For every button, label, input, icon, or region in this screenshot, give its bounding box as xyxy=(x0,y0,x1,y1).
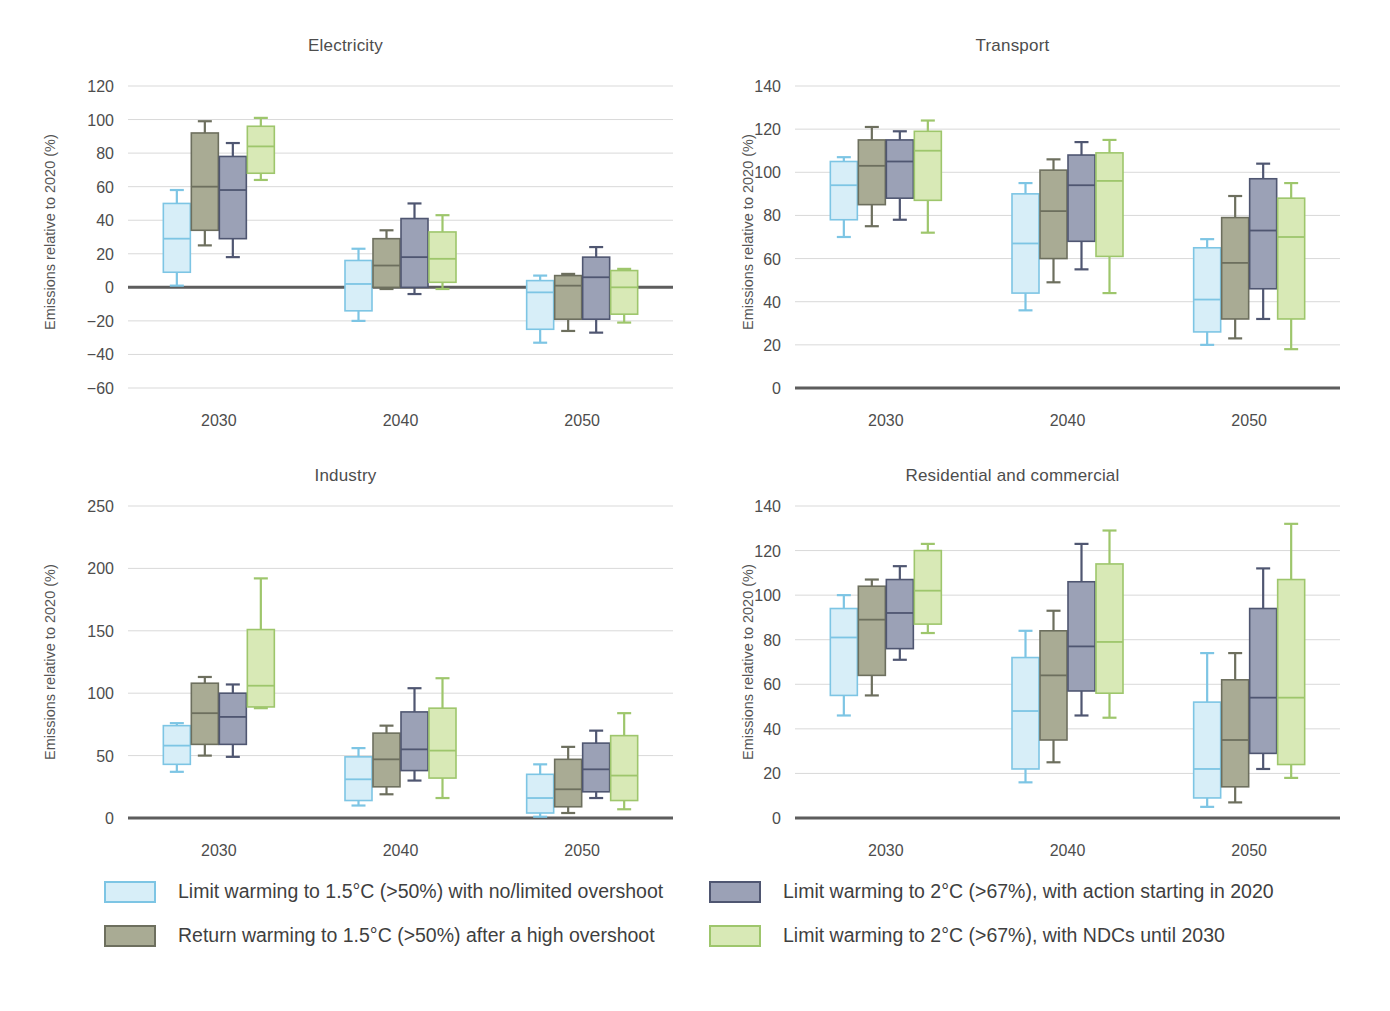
plot-wrapper-residential: 020406080100120140203020402050 xyxy=(725,506,1390,880)
legend-swatch-return_15 xyxy=(104,925,156,947)
box-transport-2030-limit_15 xyxy=(830,157,857,237)
box-transport-2040-limit_15 xyxy=(1012,183,1039,310)
box-rect xyxy=(1096,153,1123,257)
box-rect xyxy=(1222,218,1249,319)
x-tick-label: 2040 xyxy=(383,412,419,429)
chart-legend: Limit warming to 1.5°C (>50%) with no/li… xyxy=(0,868,1390,978)
y-tick-label: 60 xyxy=(96,179,114,196)
box-transport-2050-return_15 xyxy=(1222,196,1249,338)
box-rect xyxy=(345,260,372,310)
legend-item-limit_2_2020[interactable]: Limit warming to 2°C (>67%), with action… xyxy=(709,880,1274,903)
legend-item-limit_15[interactable]: Limit warming to 1.5°C (>50%) with no/li… xyxy=(104,880,663,903)
y-tick-label: 20 xyxy=(763,765,781,782)
box-residential-2050-return_15 xyxy=(1222,653,1249,802)
panel-transport: TransportEmissions relative to 2020 (%)0… xyxy=(0,0,1390,1011)
box-residential-2040-limit_15 xyxy=(1012,631,1039,783)
box-rect xyxy=(555,276,582,320)
box-rect xyxy=(1222,680,1249,787)
figure-boxplot-grid: ElectricityEmissions relative to 2020 (%… xyxy=(0,0,1390,1011)
x-tick-label: 2050 xyxy=(1231,412,1267,429)
plot-wrapper-transport: 020406080100120140203020402050 xyxy=(725,86,1390,450)
box-rect xyxy=(583,743,610,792)
box-rect xyxy=(1040,631,1067,740)
box-rect xyxy=(858,140,885,205)
y-tick-label: 100 xyxy=(87,685,114,702)
box-rect xyxy=(429,232,456,282)
y-tick-label: 100 xyxy=(754,164,781,181)
y-tick-label: 60 xyxy=(763,676,781,693)
box-rect xyxy=(219,693,246,744)
box-rect xyxy=(429,708,456,778)
y-tick-label: 20 xyxy=(763,337,781,354)
y-tick-label: 120 xyxy=(754,543,781,560)
box-rect xyxy=(247,126,274,173)
y-tick-label: 60 xyxy=(763,251,781,268)
plot-area-residential: 020406080100120140203020402050 xyxy=(725,506,1390,880)
y-tick-label: 140 xyxy=(754,78,781,95)
box-residential-2050-limit_2_2020 xyxy=(1250,568,1277,769)
box-rect xyxy=(247,630,274,707)
box-industry-2030-return_15 xyxy=(191,677,218,756)
box-industry-2050-limit_15 xyxy=(527,764,554,816)
y-tick-label: 120 xyxy=(754,121,781,138)
legend-label-return_15: Return warming to 1.5°C (>50%) after a h… xyxy=(178,924,655,947)
box-rect xyxy=(611,271,638,315)
box-transport-2050-limit_15 xyxy=(1194,239,1221,345)
y-axis-label-electricity: Emissions relative to 2020 (%) xyxy=(42,134,58,330)
box-industry-2050-limit_2_2020 xyxy=(583,731,610,798)
y-tick-label: 120 xyxy=(87,78,114,95)
box-transport-2030-limit_2_2020 xyxy=(886,131,913,219)
legend-label-limit_2_2020: Limit warming to 2°C (>67%), with action… xyxy=(783,880,1274,903)
box-residential-2030-return_15 xyxy=(858,580,885,696)
box-rect xyxy=(1096,564,1123,693)
plot-area-electricity: −60−40−20020406080100120203020402050 xyxy=(58,86,733,450)
legend-swatch-limit_2_ndc xyxy=(709,925,761,947)
box-rect xyxy=(555,759,582,806)
box-rect xyxy=(373,239,400,288)
box-electricity-2030-limit_2_ndc xyxy=(247,118,274,180)
box-rect xyxy=(191,683,218,744)
y-tick-label: 80 xyxy=(763,207,781,224)
legend-item-return_15[interactable]: Return warming to 1.5°C (>50%) after a h… xyxy=(104,924,655,947)
box-rect xyxy=(373,733,400,787)
legend-swatch-limit_2_2020 xyxy=(709,881,761,903)
box-electricity-2030-limit_15 xyxy=(163,190,190,286)
x-tick-label: 2030 xyxy=(201,412,237,429)
y-tick-label: 20 xyxy=(96,246,114,263)
box-rect xyxy=(1068,582,1095,691)
box-transport-2050-limit_2_2020 xyxy=(1250,164,1277,319)
y-tick-label: 50 xyxy=(96,748,114,765)
panel-residential: Residential and commercialEmissions rela… xyxy=(0,0,1390,1011)
box-industry-2040-limit_2_2020 xyxy=(401,688,428,780)
box-electricity-2040-limit_2_2020 xyxy=(401,203,428,294)
y-tick-label: 40 xyxy=(763,294,781,311)
legend-swatch-limit_15 xyxy=(104,881,156,903)
box-rect xyxy=(886,140,913,198)
y-tick-label: 40 xyxy=(763,721,781,738)
box-industry-2030-limit_2_ndc xyxy=(247,578,274,708)
panel-title-industry: Industry xyxy=(18,466,673,486)
x-tick-label: 2030 xyxy=(201,842,237,859)
x-tick-label: 2040 xyxy=(383,842,419,859)
y-tick-label: 40 xyxy=(96,212,114,229)
x-tick-label: 2040 xyxy=(1050,412,1086,429)
box-electricity-2050-limit_15 xyxy=(527,276,554,343)
box-industry-2050-limit_2_ndc xyxy=(611,713,638,809)
box-residential-2040-limit_2_ndc xyxy=(1096,531,1123,718)
legend-item-limit_2_ndc[interactable]: Limit warming to 2°C (>67%), with NDCs u… xyxy=(709,924,1225,947)
box-rect xyxy=(163,726,190,765)
box-industry-2030-limit_15 xyxy=(163,723,190,772)
box-rect xyxy=(1194,702,1221,798)
box-rect xyxy=(583,257,610,319)
y-tick-label: −20 xyxy=(87,313,114,330)
plot-area-transport: 020406080100120140203020402050 xyxy=(725,86,1390,450)
box-rect xyxy=(830,162,857,220)
panel-title-transport: Transport xyxy=(685,36,1340,56)
box-industry-2040-limit_15 xyxy=(345,748,372,805)
box-transport-2040-return_15 xyxy=(1040,159,1067,282)
box-rect xyxy=(1194,248,1221,332)
y-axis-label-residential: Emissions relative to 2020 (%) xyxy=(740,564,756,760)
box-rect xyxy=(191,133,218,230)
box-transport-2040-limit_2_2020 xyxy=(1068,142,1095,269)
box-rect xyxy=(1250,179,1277,289)
